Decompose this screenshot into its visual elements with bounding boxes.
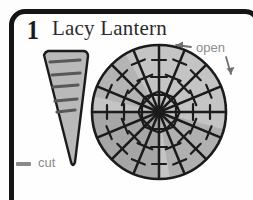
lantern-illustration <box>0 0 253 200</box>
cone-body <box>44 51 88 165</box>
cone-cut-line-5 <box>57 110 75 112</box>
cut-label: cut <box>38 155 55 170</box>
open-label: open <box>196 40 225 55</box>
dash-icon <box>16 162 31 166</box>
cone-cut-line-4 <box>55 99 77 101</box>
opened-lantern-circle <box>92 45 226 179</box>
cone-cut-line-3 <box>53 85 78 87</box>
paper-cone-wedge <box>44 51 88 165</box>
lacy-lantern-instruction-card: 1 Lacy Lantern <box>0 0 253 200</box>
arrow-down-icon <box>226 57 235 74</box>
cone-cut-line-2 <box>52 73 80 75</box>
circle-spokes-group <box>92 45 226 179</box>
cone-cut-line-1 <box>50 60 80 62</box>
